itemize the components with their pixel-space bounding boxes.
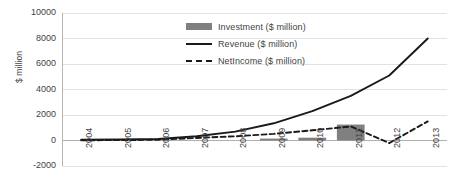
legend-label-netincome: NetIncome ($ million) bbox=[218, 56, 305, 66]
x-tick-label: 2005 bbox=[124, 128, 133, 148]
y-tick-label: 8000 bbox=[14, 34, 56, 43]
dashed-line-icon bbox=[186, 60, 212, 62]
x-tick-label: 2012 bbox=[393, 128, 402, 148]
legend-item-investment: Investment ($ million) bbox=[186, 18, 386, 35]
legend-label-revenue: Revenue ($ million) bbox=[218, 39, 297, 49]
legend-item-revenue: Revenue ($ million) bbox=[186, 35, 386, 52]
y-tick-label: 0 bbox=[14, 136, 56, 145]
y-tick-label: 10000 bbox=[14, 8, 56, 17]
chart-legend: Investment ($ million) Revenue ($ millio… bbox=[186, 18, 386, 69]
x-tick-label: 2009 bbox=[278, 128, 287, 148]
y-tick-label: 2000 bbox=[14, 110, 56, 119]
bar-swatch-icon bbox=[186, 23, 212, 30]
x-tick-label: 2011 bbox=[355, 128, 364, 148]
x-tick-label: 2004 bbox=[85, 128, 94, 148]
x-tick-label: 2006 bbox=[162, 128, 171, 148]
x-tick-label: 2013 bbox=[432, 128, 441, 148]
y-axis-tick-labels: 1000080006000400020000-2000 bbox=[0, 0, 56, 186]
y-tick-label: 6000 bbox=[14, 59, 56, 68]
legend-item-netincome: NetIncome ($ million) bbox=[186, 52, 386, 69]
x-tick-label: 2010 bbox=[316, 128, 325, 148]
y-tick-label: 4000 bbox=[14, 85, 56, 94]
solid-line-icon bbox=[186, 43, 212, 45]
netincome-line bbox=[81, 121, 428, 143]
legend-label-investment: Investment ($ million) bbox=[218, 22, 306, 32]
x-tick-label: 2008 bbox=[239, 128, 248, 148]
chart-container: $ million 1000080006000400020000-2000 20… bbox=[0, 0, 456, 186]
y-tick-label: -2000 bbox=[14, 161, 56, 170]
x-tick-label: 2007 bbox=[201, 128, 210, 148]
